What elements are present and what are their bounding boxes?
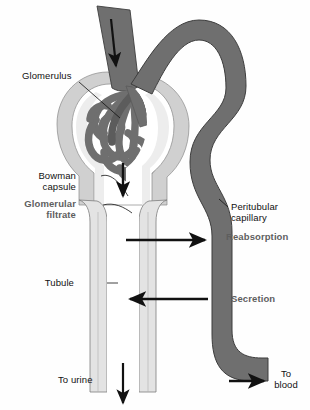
label-glomerular-filtrate: Glomerular filtrate — [8, 198, 76, 220]
label-to-urine: To urine — [58, 374, 93, 385]
label-peritubular-capillary: Peritubular capillary — [231, 201, 307, 223]
label-reabsorption: Reabsorption — [226, 231, 288, 242]
diagram-canvas: Glomerulus Bowman capsule Glomerular fil… — [0, 0, 310, 410]
tubule-left-wall — [79, 200, 107, 392]
label-glomerulus: Glomerulus — [22, 70, 72, 81]
label-to-blood: To blood — [268, 368, 304, 390]
label-bowman-capsule: Bowman capsule — [14, 170, 76, 192]
label-tubule: Tubule — [20, 277, 74, 288]
label-secretion: Secretion — [231, 293, 275, 304]
tubule-right-wall — [139, 200, 167, 392]
